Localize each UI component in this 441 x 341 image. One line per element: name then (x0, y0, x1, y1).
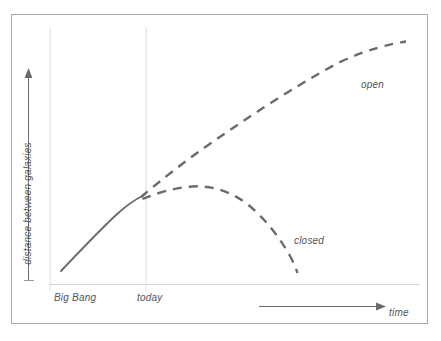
annotation-big-bang: Big Bang (54, 292, 96, 303)
x-axis-label: time (389, 307, 409, 318)
curve-closed (143, 186, 298, 273)
annotation-closed-curve: closed (294, 235, 324, 246)
time-arrowhead (376, 303, 386, 311)
y-axis-arrowhead (25, 68, 33, 78)
cosmology-expansion-figure: distance between galaxies Big Bang today… (0, 0, 441, 341)
annotation-open-curve: open (361, 79, 384, 90)
plot-canvas (0, 0, 441, 341)
annotation-today: today (137, 292, 162, 303)
curve-open (141, 42, 406, 198)
curve-common-past (61, 196, 144, 272)
y-axis-label: distance between galaxies (22, 129, 33, 279)
